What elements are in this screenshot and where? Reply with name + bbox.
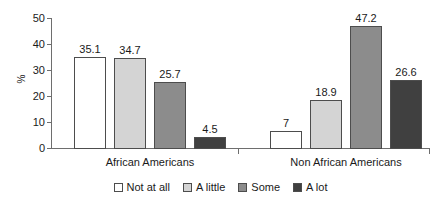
legend-label-a-little: A little: [196, 182, 225, 193]
legend-label-a-lot: A lot: [306, 182, 327, 193]
x-axis-group-label-non-african-americans: Non African Americans: [271, 156, 421, 169]
legend-item-a-lot: A lot: [293, 182, 327, 193]
bar-african-americans-not-at-all: [74, 57, 106, 149]
legend-item-a-little: A little: [183, 182, 225, 193]
bar-value-non-african-americans-not-at-all: 7: [260, 118, 312, 129]
chart-legend: Not at all A little Some A lot: [0, 182, 441, 193]
bar-value-non-african-americans-some: 47.2: [340, 13, 392, 24]
bar-chart: % 50 40 30 20 10 0 35.1 34.7 25.7 4.5 Af…: [0, 0, 441, 209]
legend-item-some: Some: [238, 182, 280, 193]
bar-value-african-americans-a-little: 34.7: [104, 45, 156, 56]
y-tick-label-10: 10: [5, 117, 45, 128]
y-tick-40: [47, 44, 52, 45]
y-tick-50: [47, 18, 52, 19]
y-tick-label-0: 0: [5, 143, 45, 154]
bar-value-non-african-americans-a-lot: 26.6: [380, 67, 432, 78]
bar-value-non-african-americans-a-little: 18.9: [300, 87, 352, 98]
x-axis-group-label-african-americans: African Americans: [75, 156, 225, 169]
legend-swatch-some: [238, 183, 247, 192]
bar-non-african-americans-not-at-all: [270, 131, 302, 149]
bar-non-african-americans-a-little: [310, 100, 342, 149]
legend-label-not-at-all: Not at all: [127, 182, 170, 193]
legend-swatch-a-little: [183, 183, 192, 192]
y-tick-10: [47, 122, 52, 123]
bar-non-african-americans-some: [350, 26, 382, 149]
legend-swatch-a-lot: [293, 183, 302, 192]
y-tick-label-30: 30: [5, 65, 45, 76]
y-axis-line: [51, 18, 52, 149]
y-tick-label-20: 20: [5, 91, 45, 102]
y-tick-30: [47, 70, 52, 71]
x-tick-axis-end: [429, 149, 430, 154]
y-tick-label-40: 40: [5, 39, 45, 50]
legend-swatch-not-at-all: [114, 183, 123, 192]
bar-non-african-americans-a-lot: [390, 80, 422, 149]
legend-label-some: Some: [251, 182, 280, 193]
bar-value-african-americans-a-lot: 4.5: [184, 124, 236, 135]
y-tick-label-50: 50: [5, 13, 45, 24]
bar-value-african-americans-some: 25.7: [144, 69, 196, 80]
legend-item-not-at-all: Not at all: [114, 182, 170, 193]
y-tick-20: [47, 96, 52, 97]
bar-african-americans-a-little: [114, 58, 146, 149]
bar-african-americans-some: [154, 82, 186, 149]
bar-african-americans-a-lot: [194, 137, 226, 149]
x-tick-group-divider: [238, 149, 239, 154]
